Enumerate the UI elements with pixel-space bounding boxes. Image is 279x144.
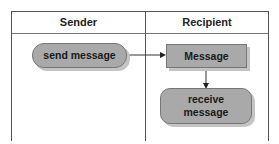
node-receive-message[interactable]: receive message [160, 88, 252, 124]
node-message[interactable]: Message [166, 44, 247, 68]
node-send-message[interactable]: send message [32, 43, 127, 68]
